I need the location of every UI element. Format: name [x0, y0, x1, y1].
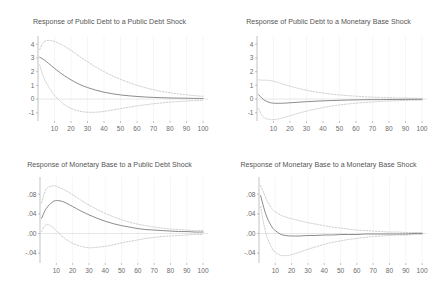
svg-text:80: 80	[385, 125, 393, 132]
plot-svg-1: -101234102030405060708090100	[219, 0, 438, 143]
svg-text:10: 10	[272, 267, 280, 274]
svg-text:70: 70	[369, 267, 377, 274]
svg-text:4: 4	[31, 41, 35, 48]
svg-text:90: 90	[183, 267, 191, 274]
svg-text:.04: .04	[27, 210, 36, 217]
svg-text:.04: .04	[246, 210, 255, 217]
svg-text:40: 40	[321, 267, 329, 274]
svg-text:50: 50	[337, 267, 345, 274]
svg-text:1: 1	[250, 82, 254, 89]
svg-text:.08: .08	[246, 191, 255, 198]
svg-text:60: 60	[352, 125, 360, 132]
impulse-response-figure: Response of Public Debt to a Public Debt…	[0, 0, 438, 285]
series-response	[42, 201, 203, 233]
svg-text:0: 0	[31, 95, 35, 102]
series-lower-band	[42, 225, 203, 248]
svg-text:60: 60	[353, 267, 361, 274]
series-lower-band	[261, 206, 422, 255]
plot-svg-2: -.04.00.04.08102030405060708090100	[0, 143, 219, 285]
svg-text:40: 40	[319, 125, 327, 132]
svg-text:100: 100	[417, 267, 428, 274]
svg-text:90: 90	[183, 125, 191, 132]
svg-text:70: 70	[150, 267, 158, 274]
svg-text:80: 80	[167, 267, 175, 274]
svg-text:70: 70	[150, 125, 158, 132]
svg-text:100: 100	[198, 125, 209, 132]
panel-monetary-base-to-public-debt-shock: Response of Monetary Base to a Public De…	[0, 143, 219, 285]
series-upper-band	[42, 186, 203, 231]
svg-text:30: 30	[84, 125, 92, 132]
series-response	[40, 57, 203, 98]
svg-text:80: 80	[166, 125, 174, 132]
svg-text:50: 50	[117, 125, 125, 132]
svg-text:20: 20	[288, 267, 296, 274]
svg-text:.00: .00	[246, 230, 255, 237]
svg-text:.08: .08	[27, 191, 36, 198]
svg-text:0: 0	[250, 95, 254, 102]
svg-text:100: 100	[417, 125, 428, 132]
svg-text:-.04: -.04	[244, 249, 256, 256]
svg-text:20: 20	[286, 125, 294, 132]
svg-text:50: 50	[336, 125, 344, 132]
svg-text:90: 90	[402, 125, 410, 132]
svg-text:1: 1	[31, 82, 35, 89]
svg-text:60: 60	[133, 125, 141, 132]
panel-public-debt-to-monetary-base-shock: Response of Public Debt to a Monetary Ba…	[219, 0, 438, 143]
svg-text:30: 30	[303, 125, 311, 132]
svg-text:30: 30	[85, 267, 93, 274]
svg-text:40: 40	[100, 125, 108, 132]
panel-monetary-base-to-monetary-base-shock: Response of Monetary Base to a Monetary …	[219, 143, 438, 285]
svg-text:40: 40	[102, 267, 110, 274]
svg-text:10: 10	[51, 125, 59, 132]
svg-text:-1: -1	[29, 109, 35, 116]
svg-text:90: 90	[402, 267, 410, 274]
svg-text:10: 10	[270, 125, 278, 132]
svg-text:20: 20	[69, 267, 77, 274]
plot-area: -.04.00.04.08102030405060708090100	[219, 143, 438, 285]
svg-text:50: 50	[118, 267, 126, 274]
svg-text:4: 4	[250, 41, 254, 48]
series-upper-band	[259, 80, 422, 99]
svg-text:70: 70	[369, 125, 377, 132]
svg-text:80: 80	[386, 267, 394, 274]
plot-area: -.04.00.04.08102030405060708090100	[0, 143, 219, 285]
plot-svg-0: -101234102030405060708090100	[0, 0, 219, 143]
svg-text:-1: -1	[248, 109, 254, 116]
svg-text:2: 2	[31, 68, 35, 75]
svg-text:10: 10	[53, 267, 61, 274]
series-upper-band	[40, 40, 203, 96]
svg-text:30: 30	[304, 267, 312, 274]
series-lower-band	[40, 65, 203, 113]
series-upper-band	[261, 185, 422, 232]
svg-text:3: 3	[250, 54, 254, 61]
svg-text:-.04: -.04	[25, 249, 37, 256]
plot-area: -101234102030405060708090100	[219, 0, 438, 143]
svg-text:.00: .00	[27, 230, 36, 237]
svg-text:3: 3	[31, 54, 35, 61]
svg-text:2: 2	[250, 68, 254, 75]
svg-text:20: 20	[67, 125, 75, 132]
svg-text:60: 60	[134, 267, 142, 274]
plot-area: -101234102030405060708090100	[0, 0, 219, 143]
series-response	[261, 196, 422, 236]
panel-public-debt-to-public-debt-shock: Response of Public Debt to a Public Debt…	[0, 0, 219, 143]
svg-text:100: 100	[198, 267, 209, 274]
plot-svg-3: -.04.00.04.08102030405060708090100	[219, 143, 438, 285]
